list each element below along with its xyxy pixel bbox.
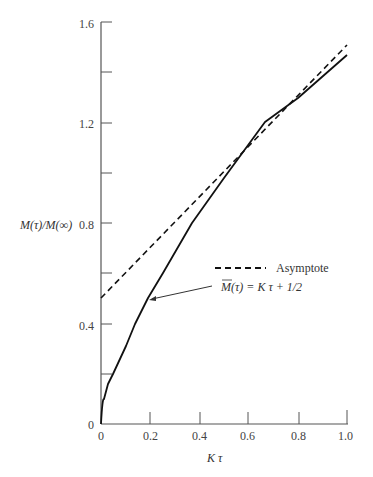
- x-tick-label: 1.0: [338, 429, 353, 443]
- solution-curve: [101, 55, 347, 424]
- annotation-arrow: [152, 286, 212, 299]
- x-tick-label: 0: [98, 429, 104, 443]
- y-axis-title: M(τ)/M(∞): [19, 218, 72, 232]
- x-axis-title: K τ: [206, 451, 223, 465]
- annotation-label: M(τ) = K τ + 1/2: [220, 280, 302, 294]
- y-tick-label: 1.6: [79, 17, 94, 31]
- arrowhead-icon: [149, 296, 156, 301]
- y-tick-label: 0.4: [79, 319, 94, 333]
- x-tick-label: 0.2: [143, 429, 158, 443]
- x-ticks: [150, 410, 347, 424]
- x-tick-label: 0.4: [192, 429, 207, 443]
- chart: 1.6 1.2 0.8 0.4 0 0 0.2 0.4 0.6 0.8 1.0 …: [0, 0, 373, 477]
- y-ticks: [101, 22, 112, 374]
- x-tick-label: 0.8: [291, 429, 306, 443]
- legend-asymptote-label: Asymptote: [276, 261, 329, 275]
- x-tick-label: 0.6: [240, 429, 255, 443]
- y-tick-label: 1.2: [79, 117, 94, 131]
- y-tick-label: 0: [88, 418, 94, 432]
- y-tick-label: 0.8: [79, 218, 94, 232]
